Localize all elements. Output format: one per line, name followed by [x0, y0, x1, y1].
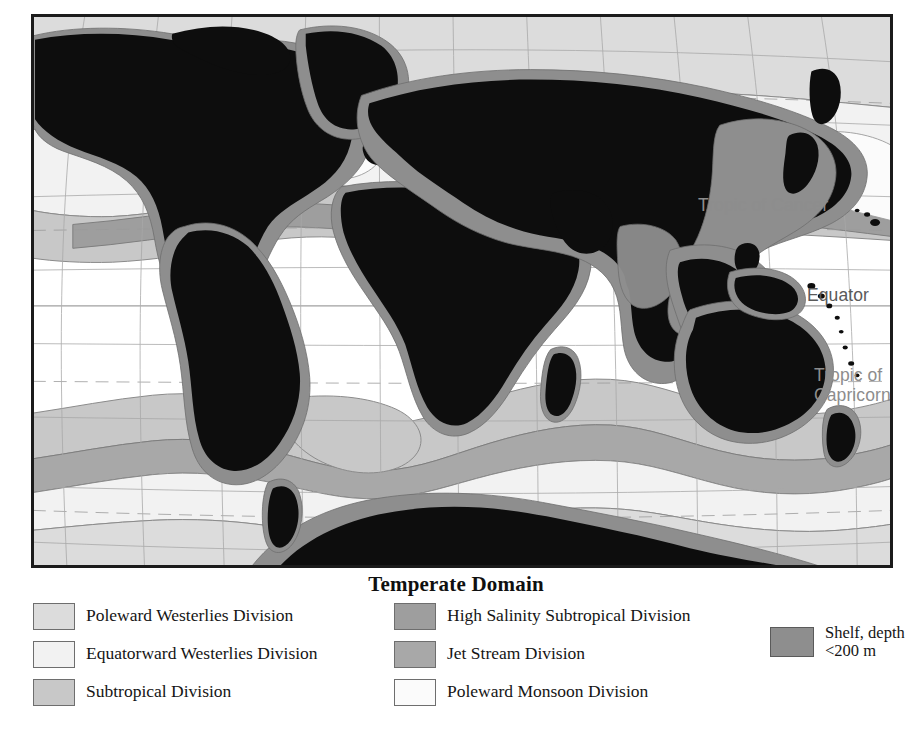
legend-item-poleward-monsoon: Poleward Monsoon Division [394, 674, 744, 710]
legend-swatch-poleward-westerlies [33, 603, 75, 630]
world-map-figure: Tropic of Cancer Equator Tropic of Capri… [31, 14, 893, 568]
map-page: Tropic of Cancer Equator Tropic of Capri… [0, 0, 912, 733]
legend-swatch-high-salinity-subtropical [394, 603, 436, 630]
legend-swatch-equatorward-westerlies [33, 641, 75, 668]
legend-swatch-poleward-monsoon [394, 679, 436, 706]
legend-item-shelf: Shelf, depth <200 m [770, 620, 912, 664]
world-map-svg [33, 16, 891, 566]
legend-label-poleward-monsoon: Poleward Monsoon Division [447, 682, 648, 702]
legend-column-1: Poleward Westerlies Division Equatorward… [33, 598, 385, 712]
legend-swatch-jet-stream [394, 641, 436, 668]
legend-swatch-shelf [770, 627, 814, 657]
legend-swatch-subtropical [33, 679, 75, 706]
figure-title: Temperate Domain [0, 572, 912, 597]
legend-item-subtropical: Subtropical Division [33, 674, 385, 710]
legend-column-3: Shelf, depth <200 m [770, 620, 912, 666]
legend-item-poleward-westerlies: Poleward Westerlies Division [33, 598, 385, 634]
legend-item-high-salinity-subtropical: High Salinity Subtropical Division [394, 598, 744, 634]
legend: Poleward Westerlies Division Equatorward… [0, 598, 912, 718]
legend-label-shelf: Shelf, depth <200 m [825, 624, 905, 660]
legend-label-high-salinity-subtropical: High Salinity Subtropical Division [447, 606, 691, 626]
legend-label-subtropical: Subtropical Division [86, 682, 231, 702]
legend-item-jet-stream: Jet Stream Division [394, 636, 744, 672]
legend-column-2: High Salinity Subtropical Division Jet S… [394, 598, 744, 712]
legend-item-equatorward-westerlies: Equatorward Westerlies Division [33, 636, 385, 672]
legend-label-jet-stream: Jet Stream Division [447, 644, 585, 664]
legend-label-poleward-westerlies: Poleward Westerlies Division [86, 606, 293, 626]
legend-label-equatorward-westerlies: Equatorward Westerlies Division [86, 644, 318, 664]
